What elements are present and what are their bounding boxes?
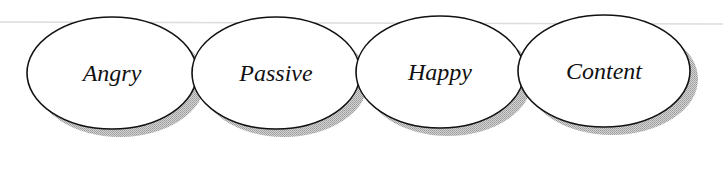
node-content: Content [518, 15, 690, 127]
node-label-passive: Passive [238, 60, 313, 86]
node-passive: Passive [192, 17, 360, 129]
node-label-content: Content [566, 58, 643, 84]
ellipse-sequence-diagram: AngryPassiveHappyContent [0, 0, 723, 183]
node-label-happy: Happy [407, 59, 472, 85]
node-layer: AngryPassiveHappyContent [27, 15, 690, 129]
node-happy: Happy [356, 16, 524, 128]
node-angry: Angry [27, 17, 197, 129]
node-label-angry: Angry [81, 60, 142, 86]
